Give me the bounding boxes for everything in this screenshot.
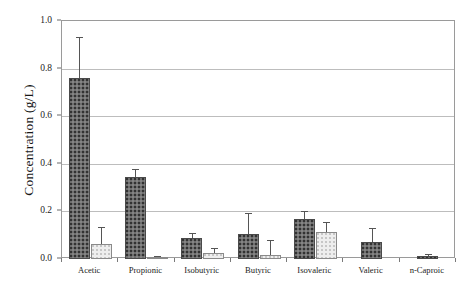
y-tick-mark	[57, 162, 61, 163]
x-tick-mark	[230, 258, 231, 262]
error-bar-cap	[245, 213, 252, 214]
error-bar	[135, 169, 136, 177]
error-bar-cap	[425, 254, 432, 255]
y-tick-mark	[57, 20, 61, 21]
bar-series-1	[238, 234, 259, 259]
bar-series-2	[147, 257, 168, 259]
error-bar-cap	[76, 37, 83, 38]
y-tick-mark	[57, 67, 61, 68]
plot-area	[61, 20, 455, 258]
gridline	[62, 116, 454, 117]
x-tick-mark	[286, 258, 287, 262]
error-bar-cap	[369, 228, 376, 229]
y-tick-mark	[57, 210, 61, 211]
bar-series-1	[417, 256, 438, 259]
gridline	[62, 164, 454, 165]
bar-series-2	[91, 244, 112, 259]
error-bar	[270, 240, 271, 254]
error-bar-cap	[132, 169, 139, 170]
error-bar	[304, 211, 305, 219]
x-tick-label: Butyric	[245, 265, 271, 275]
error-bar	[101, 227, 102, 244]
x-tick-mark	[342, 258, 343, 262]
error-bar-cap	[98, 227, 105, 228]
error-bar-cap	[267, 240, 274, 241]
error-bar-cap	[323, 222, 330, 223]
y-tick-label: 0.0	[12, 253, 52, 263]
x-tick-mark	[61, 258, 62, 262]
error-bar	[79, 37, 80, 78]
bar-series-1	[294, 219, 315, 259]
y-tick-label: 0.2	[12, 205, 52, 215]
y-axis-title: Concentration (g/L)	[21, 25, 37, 255]
x-tick-mark	[399, 258, 400, 262]
y-tick-label: 0.8	[12, 63, 52, 73]
x-tick-mark	[174, 258, 175, 262]
bar-series-1	[69, 78, 90, 259]
y-tick-mark	[57, 115, 61, 116]
x-tick-mark	[455, 258, 456, 262]
x-tick-label: Acetic	[78, 265, 100, 275]
y-tick-label: 0.4	[12, 158, 52, 168]
y-tick-label: 1.0	[12, 15, 52, 25]
bar-series-2	[316, 232, 337, 259]
x-tick-label: Propionic	[129, 265, 162, 275]
error-bar-cap	[211, 248, 218, 249]
error-bar-cap	[154, 256, 161, 257]
bar-series-2	[260, 255, 281, 259]
x-tick-mark	[117, 258, 118, 262]
bar-chart: Concentration (g/L) 0.00.20.40.60.81.0 A…	[0, 0, 473, 293]
bar-series-1	[125, 177, 146, 259]
x-tick-label: n-Caproic	[410, 265, 444, 275]
bar-series-1	[181, 238, 202, 259]
y-tick-label: 0.6	[12, 110, 52, 120]
error-bar	[248, 213, 249, 234]
error-bar	[372, 228, 373, 242]
error-bar-cap	[301, 211, 308, 212]
gridline	[62, 211, 454, 212]
x-tick-label: Isovaleric	[297, 265, 331, 275]
gridline	[62, 69, 454, 70]
bar-series-1	[361, 242, 382, 259]
x-tick-label: Isobutyric	[184, 265, 219, 275]
x-tick-label: Valeric	[358, 265, 382, 275]
bar-series-2	[203, 253, 224, 259]
error-bar	[326, 222, 327, 232]
error-bar-cap	[189, 233, 196, 234]
